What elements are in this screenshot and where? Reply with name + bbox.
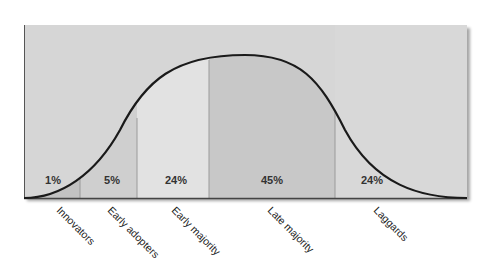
pct-innovators: 1% bbox=[45, 174, 61, 186]
pct-early-adopters: 5% bbox=[104, 174, 120, 186]
category-innovators: Innovators bbox=[55, 204, 98, 247]
category-laggards: Laggards bbox=[372, 204, 411, 243]
category-early-adopters: Early adopters bbox=[106, 204, 162, 260]
adoption-curve-chart: 1% 5% 24% 45% 24% Innovators Early adopt… bbox=[0, 0, 487, 270]
pct-laggards: 24% bbox=[361, 174, 383, 186]
category-late-majority: Late majority bbox=[266, 204, 318, 256]
category-early-majority: Early majority bbox=[170, 204, 224, 258]
pct-late-majority: 45% bbox=[261, 174, 283, 186]
pct-early-majority: 24% bbox=[165, 174, 187, 186]
